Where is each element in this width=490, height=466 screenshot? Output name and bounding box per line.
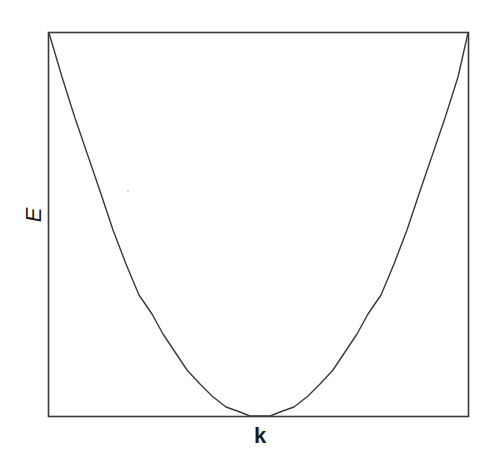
plot-canvas [0,0,490,466]
x-axis-label: k [248,424,272,448]
y-axis-label: E [22,203,46,227]
parabola-curve [49,33,468,416]
dispersion-figure: E k [0,0,490,466]
stray-dot [127,190,128,191]
